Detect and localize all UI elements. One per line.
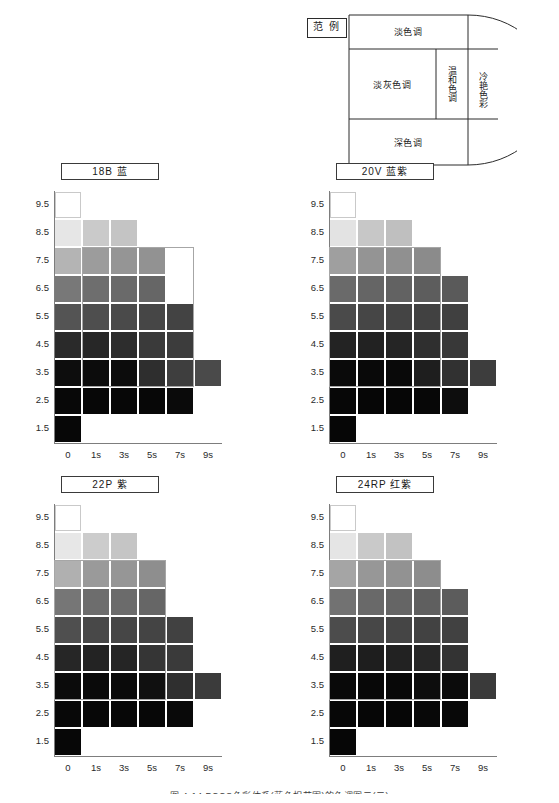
color-swatch <box>111 276 137 302</box>
x-axis-tick-label: 3s <box>110 762 138 773</box>
color-swatch <box>167 304 193 330</box>
color-swatch <box>55 192 81 218</box>
color-swatch <box>83 332 109 358</box>
color-swatch <box>414 304 440 330</box>
color-swatch <box>330 673 356 699</box>
chart-panel-18b: 18B 蓝9.58.57.56.55.54.53.52.51.501s3s5s7… <box>18 163 262 473</box>
x-axis-line <box>54 443 222 444</box>
plot-area: 9.58.57.56.55.54.53.52.51.501s3s5s7s9s <box>54 191 222 443</box>
color-swatch <box>358 360 384 386</box>
color-swatch <box>442 360 468 386</box>
color-swatch <box>111 561 137 587</box>
x-axis-tick-label: 9s <box>469 449 497 460</box>
legend-zone-light-gray-tone: 淡灰色调 <box>348 49 436 119</box>
color-swatch <box>330 220 356 246</box>
figure-page: 范 例 淡色调 淡灰色调 温和色调 冷艳色彩 深色调 18B 蓝9.58.57.… <box>0 0 559 803</box>
color-swatch <box>55 701 81 727</box>
color-swatch <box>55 533 81 559</box>
y-axis-tick-label: 6.5 <box>298 595 324 606</box>
chart-panel-20v: 20V 蓝紫9.58.57.56.55.54.53.52.51.501s3s5s… <box>293 163 537 473</box>
x-axis-tick-label: 9s <box>194 449 222 460</box>
color-swatch <box>386 304 412 330</box>
color-swatch <box>55 304 81 330</box>
x-axis-tick-label: 9s <box>469 762 497 773</box>
y-axis-tick-label: 7.5 <box>23 254 49 265</box>
color-swatch <box>442 617 468 643</box>
color-swatch <box>139 673 165 699</box>
color-swatch <box>358 589 384 615</box>
color-swatch <box>414 561 440 587</box>
color-swatch <box>414 589 440 615</box>
y-axis-tick-label: 8.5 <box>298 226 324 237</box>
color-swatch <box>386 561 412 587</box>
color-swatch <box>83 248 109 274</box>
color-swatch <box>414 701 440 727</box>
color-swatch <box>442 589 468 615</box>
color-swatch <box>414 248 440 274</box>
color-swatch <box>442 673 468 699</box>
x-axis-tick-label: 0 <box>329 762 357 773</box>
color-swatch <box>358 388 384 414</box>
legend-zone-dark-tone: 深色调 <box>348 119 468 166</box>
x-axis-tick-label: 7s <box>441 762 469 773</box>
color-swatch <box>358 332 384 358</box>
y-axis-tick-label: 9.5 <box>298 511 324 522</box>
color-swatch <box>470 360 496 386</box>
x-axis-tick-label: 0 <box>54 449 82 460</box>
x-axis-tick-label: 5s <box>413 449 441 460</box>
color-swatch <box>55 220 81 246</box>
color-swatch <box>55 673 81 699</box>
x-axis-line <box>329 756 497 757</box>
color-swatch <box>358 248 384 274</box>
chart-title: 22P 紫 <box>61 476 159 493</box>
color-swatch <box>111 332 137 358</box>
color-swatch <box>358 220 384 246</box>
legend-tag: 范 例 <box>307 18 347 38</box>
color-swatch <box>83 220 109 246</box>
plot-area: 9.58.57.56.55.54.53.52.51.501s3s5s7s9s <box>329 191 497 443</box>
color-swatch <box>167 701 193 727</box>
x-axis-line <box>329 443 497 444</box>
legend-diagram: 范 例 淡色调 淡灰色调 温和色调 冷艳色彩 深色调 <box>307 14 517 166</box>
color-swatch <box>358 533 384 559</box>
color-swatch <box>358 645 384 671</box>
color-swatch <box>55 388 81 414</box>
color-swatch <box>358 673 384 699</box>
color-swatch <box>330 533 356 559</box>
color-swatch <box>414 388 440 414</box>
color-swatch <box>358 617 384 643</box>
color-swatch <box>139 561 165 587</box>
color-swatch <box>330 248 356 274</box>
y-axis-tick-label: 4.5 <box>298 651 324 662</box>
x-axis-tick-label: 9s <box>194 762 222 773</box>
plot-area: 9.58.57.56.55.54.53.52.51.501s3s5s7s9s <box>54 504 222 756</box>
y-axis-tick-label: 3.5 <box>23 366 49 377</box>
color-swatch <box>55 332 81 358</box>
color-swatch <box>167 673 193 699</box>
x-axis-tick-label: 7s <box>166 449 194 460</box>
figure-caption: 图 4-14 PCCS色彩体系(蓝色相范围)的色调图示(二) <box>0 789 559 803</box>
legend-zone-light-tone: 淡色调 <box>348 14 468 49</box>
y-axis-tick-label: 8.5 <box>23 226 49 237</box>
color-swatch <box>386 701 412 727</box>
color-swatch <box>83 360 109 386</box>
x-axis-tick-label: 3s <box>110 449 138 460</box>
color-swatch <box>55 505 81 531</box>
color-swatch <box>358 561 384 587</box>
color-swatch <box>330 388 356 414</box>
y-axis-tick-label: 9.5 <box>298 198 324 209</box>
color-swatch <box>442 276 468 302</box>
x-axis-tick-label: 1s <box>82 762 110 773</box>
color-swatch <box>111 248 137 274</box>
color-swatch <box>55 248 81 274</box>
legend-body: 淡色调 淡灰色调 温和色调 冷艳色彩 深色调 <box>348 14 517 166</box>
color-swatch <box>55 589 81 615</box>
y-axis-tick-label: 7.5 <box>298 567 324 578</box>
color-swatch <box>358 701 384 727</box>
color-swatch <box>470 673 496 699</box>
x-axis-tick-label: 7s <box>441 449 469 460</box>
color-swatch <box>330 645 356 671</box>
y-axis-tick-label: 5.5 <box>23 310 49 321</box>
color-swatch <box>139 589 165 615</box>
color-swatch <box>83 304 109 330</box>
